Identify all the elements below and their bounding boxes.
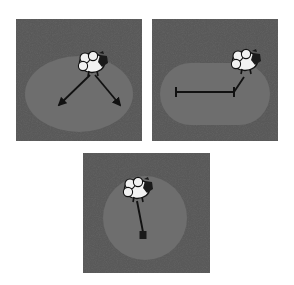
sheep-leg-front [133, 197, 134, 202]
panel-circle-canvas [83, 153, 210, 273]
sheep-wool-tuft-low [231, 59, 240, 68]
sheep-wool-tuft-mid [133, 177, 142, 186]
panel-stadium-canvas [152, 19, 278, 141]
sheep-wool-tuft-mid [88, 51, 97, 60]
figure-container [0, 0, 294, 285]
anchor-stake [140, 231, 147, 239]
sheep-leg-rear [97, 71, 98, 76]
panel-stadium [152, 19, 278, 141]
sheep-leg-rear [142, 197, 143, 202]
sheep-leg-rear [250, 69, 251, 74]
sheep-wool-tuft-mid [241, 49, 250, 58]
panel-ellipse [16, 19, 142, 141]
sheep-wool-tuft-low [123, 187, 132, 196]
panel-circle [83, 153, 210, 273]
panel-ellipse-canvas [16, 19, 142, 141]
sheep-wool-tuft-low [78, 61, 87, 70]
sheep-leg-front [88, 71, 89, 76]
sheep-leg-front [241, 69, 242, 74]
